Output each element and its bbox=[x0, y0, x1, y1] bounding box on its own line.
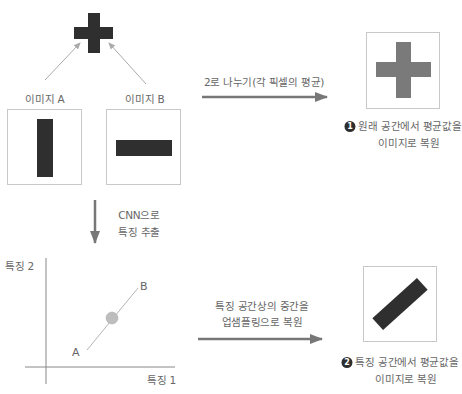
cnn-label-line1: CNN으로 bbox=[118, 207, 160, 222]
image-a-box bbox=[7, 109, 82, 185]
label-image-a: 이미지 A bbox=[25, 91, 64, 106]
caption-1-line2: 이미지로 복원 bbox=[378, 135, 439, 150]
horizontal-bar-shape bbox=[116, 140, 172, 156]
label-image-b: 이미지 B bbox=[125, 91, 164, 106]
pixel-average-label: 2로 나누기(각 픽셀의 평균) bbox=[204, 74, 324, 89]
caption-2-line1: 2특징 공간에서 평균값을 bbox=[341, 354, 458, 369]
result-2-box bbox=[363, 266, 437, 342]
arrow-b-to-merged bbox=[109, 43, 146, 84]
arrow-a-to-merged bbox=[45, 43, 80, 80]
image-b-box bbox=[106, 109, 181, 185]
vertical-bar-shape bbox=[37, 119, 53, 177]
cnn-label-line2: 특징 추출 bbox=[118, 224, 160, 239]
caption-2-line2: 이미지로 복원 bbox=[375, 371, 436, 386]
point-a-label: A bbox=[72, 346, 79, 359]
number-2-icon: 2 bbox=[341, 357, 352, 368]
caption-1-line1: 1원래 공간에서 평균값을 bbox=[344, 118, 461, 133]
caption-1-text: 원래 공간에서 평균값을 bbox=[358, 120, 461, 132]
result-1-box bbox=[366, 32, 440, 109]
x-axis-label: 특징 1 bbox=[147, 372, 176, 387]
feature-average-label-line2: 업샘플링으로 복원 bbox=[222, 314, 303, 329]
y-axis-label: 특징 2 bbox=[5, 258, 34, 273]
number-1-icon: 1 bbox=[344, 121, 355, 132]
caption-2-text: 특징 공간에서 평균값을 bbox=[355, 356, 458, 368]
point-b-label: B bbox=[140, 280, 147, 293]
midpoint-circle bbox=[106, 312, 118, 324]
feature-average-label-line1: 특징 공간상의 중간을 bbox=[215, 298, 308, 313]
